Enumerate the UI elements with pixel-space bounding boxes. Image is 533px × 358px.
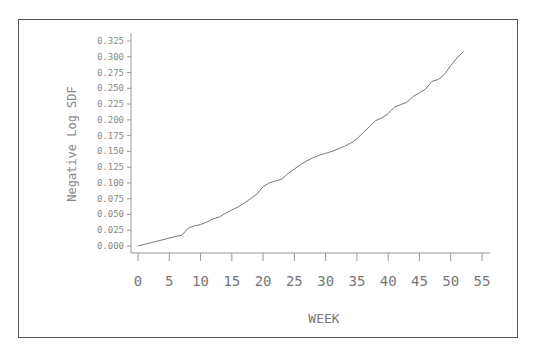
x-axis-title: WEEK: [308, 311, 339, 326]
y-tick-label: 0.125: [97, 162, 124, 172]
x-tick-label: 40: [380, 273, 397, 289]
y-tick-label: 0.050: [97, 209, 124, 219]
y-tick-label: 0.200: [97, 115, 124, 125]
x-tick-label: 15: [223, 273, 240, 289]
x-tick-label: 50: [442, 273, 459, 289]
x-tick-label: 0: [134, 273, 142, 289]
x-tick-label: 5: [165, 273, 173, 289]
y-tick-label: 0.000: [97, 241, 124, 251]
y-tick-label: 0.075: [97, 194, 124, 204]
y-axis-title: Negative Log SDF: [65, 86, 79, 202]
x-tick-label: 35: [348, 273, 365, 289]
x-tick-label: 30: [317, 273, 334, 289]
x-tick-label: 45: [411, 273, 428, 289]
y-tick-label: 0.300: [97, 52, 124, 62]
y-tick-label: 0.225: [97, 99, 124, 109]
y-axis: 0.0000.0250.0500.0750.1000.1250.1500.175…: [97, 33, 131, 253]
y-tick-label: 0.325: [97, 36, 124, 46]
y-tick-label: 0.275: [97, 68, 124, 78]
y-tick-label: 0.250: [97, 83, 124, 93]
data-line: [138, 52, 463, 246]
x-tick-label: 55: [474, 273, 491, 289]
x-tick-label: 20: [255, 273, 272, 289]
line-chart: 0.0000.0250.0500.0750.1000.1250.1500.175…: [0, 0, 533, 358]
y-tick-label: 0.150: [97, 146, 124, 156]
x-tick-label: 25: [286, 273, 303, 289]
x-axis: 0510152025303540455055: [131, 253, 490, 289]
y-tick-label: 0.175: [97, 131, 124, 141]
x-tick-label: 10: [192, 273, 209, 289]
y-tick-label: 0.100: [97, 178, 124, 188]
y-tick-label: 0.025: [97, 225, 124, 235]
